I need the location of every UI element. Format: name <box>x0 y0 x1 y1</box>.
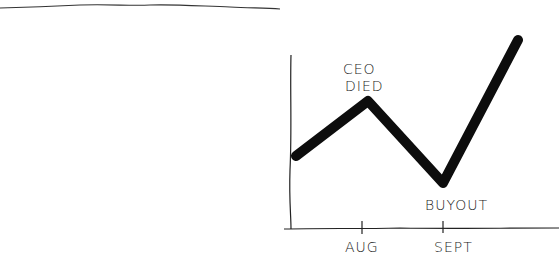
data-line <box>296 40 518 183</box>
stock-chart-panel: CEO DIED BUYOUT AUG SEPT <box>0 0 559 274</box>
annotation-buyout: BUYOUT <box>425 197 488 213</box>
x-axis <box>284 228 559 229</box>
annotation-ceo: CEO <box>343 61 376 77</box>
annotation-died: DIED <box>345 78 384 94</box>
panel-border-line <box>0 5 280 9</box>
x-tick-label-sept: SEPT <box>434 239 473 255</box>
x-tick-label-aug: AUG <box>345 239 379 255</box>
y-axis <box>290 55 291 229</box>
